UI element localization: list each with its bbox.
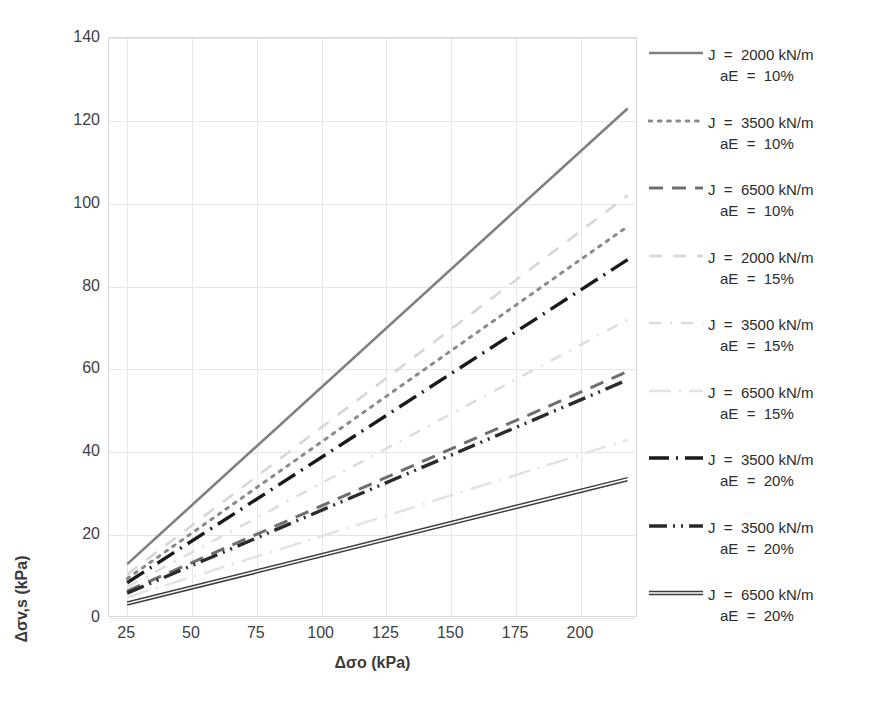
legend-label-line1: J = 3500 kN/m [708,316,813,333]
x-tick-label: 25 [117,624,135,642]
legend-item[interactable]: J = 3500 kN/maE = 20% [648,517,876,575]
y-tick-label: 140 [56,29,100,45]
y-axis-title: Δσv,s (kPa) [13,519,31,679]
legend-label-line2: aE = 15% [708,403,813,424]
legend-label-line1: J = 6500 kN/m [708,384,813,401]
y-tick-label: 20 [56,526,100,542]
x-axis-tick-labels: 255075100125150175200 [108,624,637,648]
x-tick-label: 75 [247,624,265,642]
legend-line-sample [648,518,704,534]
legend-label-line2: aE = 20% [708,470,813,491]
series-line [127,440,627,597]
x-axis-title: Δσo (kPa) [108,654,637,672]
series-line [127,372,627,592]
series-line [127,260,627,583]
legend-item[interactable]: J = 3500 kN/maE = 20% [648,449,876,507]
legend-label: J = 6500 kN/maE = 20% [704,584,813,626]
legend-label-line1: J = 3500 kN/m [708,519,813,536]
legend-line-sample [648,180,704,196]
y-tick-label: 40 [56,443,100,459]
series-line [127,320,627,587]
y-axis-tick-labels: 020406080100120140 [44,37,100,617]
legend-label: J = 2000 kN/maE = 10% [704,44,813,86]
legend-label-line1: J = 3500 kN/m [708,451,813,468]
legend-label-line2: aE = 15% [708,268,813,289]
legend-label-line1: J = 2000 kN/m [708,46,813,63]
legend-label: J = 6500 kN/maE = 10% [704,179,813,221]
legend-label-line1: J = 3500 kN/m [708,114,813,131]
legend-line-sample [648,45,704,61]
legend-line-sample [648,383,704,399]
x-tick-label: 175 [502,624,529,642]
plot-area [108,37,637,617]
legend-line-sample [648,315,704,331]
y-tick-label: 60 [56,360,100,376]
legend-label-line2: aE = 10% [708,200,813,221]
legend-label-line2: aE = 15% [708,335,813,356]
series-line [127,481,627,605]
legend-label-line1: J = 6500 kN/m [708,181,813,198]
chart-legend: J = 2000 kN/maE = 10%J = 3500 kN/maE = 1… [648,44,876,654]
legend-label: J = 3500 kN/maE = 20% [704,449,813,491]
legend-line-sample [648,113,704,129]
y-tick-label: 0 [56,609,100,625]
legend-line-sample [648,248,704,264]
x-tick-label: 150 [437,624,464,642]
y-axis-title-holder: Δσv,s (kPa) [0,290,40,330]
legend-label-line1: J = 6500 kN/m [708,586,813,603]
legend-label: J = 6500 kN/maE = 15% [704,382,813,424]
legend-item[interactable]: J = 6500 kN/maE = 15% [648,382,876,440]
legend-label-line2: aE = 10% [708,133,813,154]
series-line [127,195,627,574]
x-tick-label: 200 [567,624,594,642]
y-tick-label: 80 [56,278,100,294]
legend-label-line2: aE = 10% [708,65,813,86]
legend-item[interactable]: J = 2000 kN/maE = 10% [648,44,876,102]
legend-label: J = 3500 kN/maE = 15% [704,314,813,356]
legend-label-line2: aE = 20% [708,605,813,626]
series-lines [109,38,638,618]
series-line [127,380,627,593]
legend-line-sample [648,450,704,466]
legend-item[interactable]: J = 2000 kN/maE = 15% [648,247,876,305]
legend-item[interactable]: J = 3500 kN/maE = 10% [648,112,876,170]
legend-item[interactable]: J = 6500 kN/maE = 10% [648,179,876,237]
y-tick-label: 100 [56,195,100,211]
legend-label: J = 2000 kN/maE = 15% [704,247,813,289]
gridline-horizontal [109,618,636,619]
chart-figure: 020406080100120140 255075100125150175200… [0,0,882,714]
legend-label-line1: J = 2000 kN/m [708,249,813,266]
legend-label-line2: aE = 20% [708,538,813,559]
x-tick-label: 100 [307,624,334,642]
series-line [127,227,627,579]
legend-item[interactable]: J = 6500 kN/maE = 20% [648,584,876,642]
x-tick-label: 125 [372,624,399,642]
legend-label: J = 3500 kN/maE = 10% [704,112,813,154]
y-tick-label: 120 [56,112,100,128]
legend-label: J = 3500 kN/maE = 20% [704,517,813,559]
legend-line-sample [648,585,704,601]
x-tick-label: 50 [182,624,200,642]
legend-item[interactable]: J = 3500 kN/maE = 15% [648,314,876,372]
